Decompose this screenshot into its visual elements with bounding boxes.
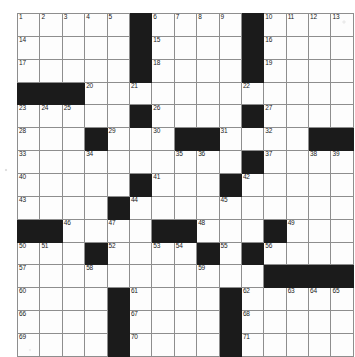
crossword-cell[interactable]: 48: [197, 219, 219, 242]
crossword-cell[interactable]: [107, 82, 129, 105]
crossword-cell[interactable]: [85, 174, 107, 197]
crossword-cell[interactable]: [264, 196, 286, 219]
crossword-cell[interactable]: [286, 128, 308, 151]
crossword-cell[interactable]: [174, 82, 196, 105]
crossword-cell[interactable]: [264, 288, 286, 311]
crossword-cell[interactable]: [62, 288, 84, 311]
crossword-cell[interactable]: 70: [129, 334, 151, 357]
crossword-cell[interactable]: [331, 36, 353, 59]
crossword-cell[interactable]: [197, 174, 219, 197]
crossword-cell[interactable]: 29: [107, 128, 129, 151]
crossword-cell[interactable]: [107, 151, 129, 174]
crossword-cell[interactable]: 66: [18, 311, 40, 334]
crossword-cell[interactable]: [309, 36, 331, 59]
crossword-cell[interactable]: [174, 196, 196, 219]
crossword-cell[interactable]: [241, 196, 263, 219]
crossword-cell[interactable]: 4: [85, 14, 107, 37]
crossword-cell[interactable]: 59: [197, 265, 219, 288]
crossword-cell[interactable]: [197, 311, 219, 334]
crossword-cell[interactable]: [152, 151, 174, 174]
crossword-cell[interactable]: 13: [331, 14, 353, 37]
crossword-cell[interactable]: 21: [129, 82, 151, 105]
crossword-cell[interactable]: [219, 105, 241, 128]
crossword-cell[interactable]: 39: [331, 151, 353, 174]
crossword-cell[interactable]: [85, 334, 107, 357]
crossword-cell[interactable]: [286, 242, 308, 265]
crossword-cell[interactable]: 27: [264, 105, 286, 128]
crossword-cell[interactable]: 46: [62, 219, 84, 242]
crossword-cell[interactable]: 30: [152, 128, 174, 151]
crossword-cell[interactable]: [197, 82, 219, 105]
crossword-cell[interactable]: [286, 334, 308, 357]
crossword-cell[interactable]: [264, 82, 286, 105]
crossword-cell[interactable]: 64: [309, 288, 331, 311]
crossword-cell[interactable]: [331, 196, 353, 219]
crossword-cell[interactable]: 14: [18, 36, 40, 59]
crossword-cell[interactable]: 41: [152, 174, 174, 197]
crossword-cell[interactable]: 8: [197, 14, 219, 37]
crossword-cell[interactable]: [219, 265, 241, 288]
crossword-cell[interactable]: [40, 128, 62, 151]
crossword-cell[interactable]: [62, 59, 84, 82]
crossword-cell[interactable]: 26: [152, 105, 174, 128]
crossword-cell[interactable]: 34: [85, 151, 107, 174]
crossword-cell[interactable]: [85, 311, 107, 334]
crossword-cell[interactable]: [174, 334, 196, 357]
crossword-cell[interactable]: [241, 128, 263, 151]
crossword-cell[interactable]: 58: [85, 265, 107, 288]
crossword-cell[interactable]: 1: [18, 14, 40, 37]
crossword-cell[interactable]: [174, 36, 196, 59]
crossword-cell[interactable]: [219, 59, 241, 82]
crossword-cell[interactable]: 45: [219, 196, 241, 219]
crossword-cell[interactable]: 54: [174, 242, 196, 265]
crossword-cell[interactable]: [264, 334, 286, 357]
crossword-cell[interactable]: [40, 311, 62, 334]
crossword-cell[interactable]: [286, 196, 308, 219]
crossword-cell[interactable]: [62, 334, 84, 357]
crossword-cell[interactable]: [40, 196, 62, 219]
crossword-cell[interactable]: [286, 82, 308, 105]
crossword-cell[interactable]: [219, 82, 241, 105]
crossword-cell[interactable]: 12: [309, 14, 331, 37]
crossword-cell[interactable]: [197, 196, 219, 219]
crossword-cell[interactable]: [129, 128, 151, 151]
crossword-cell[interactable]: 9: [219, 14, 241, 37]
crossword-cell[interactable]: [40, 334, 62, 357]
crossword-cell[interactable]: 11: [286, 14, 308, 37]
crossword-cell[interactable]: [85, 196, 107, 219]
crossword-cell[interactable]: [62, 242, 84, 265]
crossword-cell[interactable]: [309, 174, 331, 197]
crossword-cell[interactable]: 2: [40, 14, 62, 37]
crossword-cell[interactable]: 50: [18, 242, 40, 265]
crossword-cell[interactable]: 37: [264, 151, 286, 174]
crossword-cell[interactable]: [331, 219, 353, 242]
crossword-cell[interactable]: 44: [129, 196, 151, 219]
crossword-cell[interactable]: 65: [331, 288, 353, 311]
crossword-cell[interactable]: 7: [174, 14, 196, 37]
crossword-cell[interactable]: 43: [18, 196, 40, 219]
crossword-cell[interactable]: 52: [107, 242, 129, 265]
crossword-cell[interactable]: [331, 59, 353, 82]
crossword-cell[interactable]: [174, 59, 196, 82]
crossword-cell[interactable]: [309, 82, 331, 105]
crossword-grid[interactable]: 1234567891011121314151617181920212223242…: [17, 13, 354, 357]
crossword-cell[interactable]: 16: [264, 36, 286, 59]
crossword-cell[interactable]: [40, 288, 62, 311]
crossword-cell[interactable]: 35: [174, 151, 196, 174]
crossword-cell[interactable]: [40, 174, 62, 197]
crossword-cell[interactable]: 62: [241, 288, 263, 311]
crossword-cell[interactable]: [174, 288, 196, 311]
crossword-cell[interactable]: [197, 36, 219, 59]
crossword-cell[interactable]: [62, 174, 84, 197]
crossword-cell[interactable]: [286, 105, 308, 128]
crossword-cell[interactable]: [241, 265, 263, 288]
crossword-cell[interactable]: 60: [18, 288, 40, 311]
crossword-cell[interactable]: 3: [62, 14, 84, 37]
crossword-cell[interactable]: 47: [107, 219, 129, 242]
crossword-cell[interactable]: [197, 334, 219, 357]
crossword-cell[interactable]: 61: [129, 288, 151, 311]
crossword-cell[interactable]: [331, 174, 353, 197]
crossword-cell[interactable]: [152, 311, 174, 334]
crossword-cell[interactable]: [62, 36, 84, 59]
crossword-cell[interactable]: [40, 36, 62, 59]
